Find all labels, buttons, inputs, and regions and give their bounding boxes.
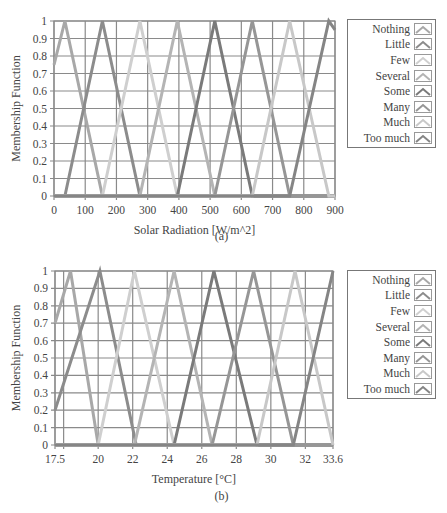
- y-tick-label: 0.7: [33, 68, 48, 80]
- legend-label: Some: [384, 85, 410, 97]
- x-tick-label: 700: [264, 204, 282, 216]
- x-tick-label: 500: [201, 204, 219, 216]
- y-tick-label: 0.6: [34, 335, 49, 347]
- y-tick-label: 0: [42, 439, 48, 451]
- legend-label: Some: [384, 336, 410, 348]
- y-tick-label: 0.4: [34, 369, 49, 381]
- legend-label: Many: [383, 101, 410, 113]
- legend-label: Several: [376, 70, 410, 82]
- y-tick-label: 0.9: [33, 33, 48, 45]
- legend-label: Several: [376, 321, 410, 333]
- legend-label: Many: [383, 352, 410, 364]
- legend-swatch-icon: [414, 132, 432, 144]
- y-tick-label: 0.8: [33, 50, 48, 62]
- x-tick-label: 32: [300, 453, 312, 465]
- caption-b: (b): [0, 489, 445, 504]
- legend-swatch-icon: [414, 116, 432, 128]
- y-tick-label: 0.1: [33, 173, 48, 185]
- y-tick-label: 0.3: [33, 138, 48, 150]
- legend-swatch-icon: [414, 23, 432, 35]
- y-tick-label: 0.2: [33, 155, 48, 167]
- legend-item: Much: [350, 115, 432, 131]
- legend-label: Nothing: [372, 274, 410, 286]
- y-axis-label: Membership Function: [9, 55, 23, 161]
- x-tick-label: 26: [196, 453, 208, 465]
- legend-item: Many: [350, 99, 432, 115]
- y-tick-label: 0.3: [34, 387, 49, 399]
- legend-swatch-icon: [414, 101, 432, 113]
- legend-item: Too much: [350, 381, 432, 397]
- legend-b: NothingLittleFewSeveralSomeManyMuchToo m…: [347, 270, 436, 399]
- legend-label: Too much: [364, 132, 410, 144]
- x-tick-label: 28: [231, 453, 243, 465]
- legend-item: Much: [350, 366, 432, 382]
- legend-label: Much: [383, 367, 410, 379]
- y-tick-label: 0.8: [34, 300, 49, 312]
- legend-label: Little: [385, 289, 410, 301]
- legend-a: NothingLittleFewSeveralSomeManyMuchToo m…: [347, 19, 436, 148]
- legend-label: Much: [383, 116, 410, 128]
- x-tick-label: 20: [92, 453, 104, 465]
- legend-item: Nothing: [350, 272, 432, 288]
- legend-item: Many: [350, 350, 432, 366]
- y-tick-label: 0.2: [34, 404, 49, 416]
- legend-item: Little: [350, 288, 432, 304]
- legend-swatch-icon: [414, 367, 432, 379]
- y-tick-label: 0.6: [33, 85, 48, 97]
- legend-item: Some: [350, 83, 432, 99]
- legend-swatch-icon: [414, 289, 432, 301]
- chart-temperature: 00.10.20.30.40.50.60.70.80.9117.52022242…: [0, 256, 447, 513]
- legend-item: Few: [350, 52, 432, 68]
- x-tick-label: 0: [51, 204, 57, 216]
- legend-item: Too much: [350, 130, 432, 146]
- legend-item: Few: [350, 303, 432, 319]
- legend-item: Little: [350, 37, 432, 53]
- legend-label: Too much: [364, 383, 410, 395]
- legend-swatch-icon: [414, 336, 432, 348]
- legend-swatch-icon: [414, 38, 432, 50]
- y-tick-label: 0.7: [34, 317, 49, 329]
- y-tick-label: 1: [41, 15, 47, 27]
- x-tick-label: 22: [127, 453, 139, 465]
- x-tick-label: 24: [161, 453, 173, 465]
- legend-swatch-icon: [414, 70, 432, 82]
- legend-swatch-icon: [414, 321, 432, 333]
- legend-item: Nothing: [350, 21, 432, 37]
- x-tick-label: 900: [326, 204, 344, 216]
- legend-item: Several: [350, 319, 432, 335]
- legend-swatch-icon: [414, 85, 432, 97]
- y-tick-label: 0.1: [34, 422, 49, 434]
- x-tick-label: 400: [170, 204, 188, 216]
- legend-swatch-icon: [414, 274, 432, 286]
- y-tick-label: 0.4: [33, 120, 48, 132]
- legend-label: Few: [390, 54, 410, 66]
- legend-swatch-icon: [414, 305, 432, 317]
- grid: 00.10.20.30.40.50.60.70.80.9101002003004…: [33, 15, 344, 216]
- x-axis-label: Temperature [°C]: [152, 472, 236, 486]
- y-tick-label: 1: [42, 265, 48, 277]
- y-axis-label: Membership Function: [9, 305, 23, 411]
- chart-solar-radiation: 00.10.20.30.40.50.60.70.80.9101002003004…: [0, 0, 447, 256]
- y-tick-label: 0: [41, 190, 47, 202]
- x-tick-label: 17.5: [45, 453, 65, 465]
- legend-label: Nothing: [372, 23, 410, 35]
- x-tick-label: 300: [139, 204, 157, 216]
- y-tick-label: 0.9: [34, 282, 49, 294]
- legend-swatch-icon: [414, 54, 432, 66]
- legend-item: Several: [350, 68, 432, 84]
- x-tick-label: 600: [233, 204, 251, 216]
- legend-swatch-icon: [414, 383, 432, 395]
- x-tick-label: 100: [77, 204, 95, 216]
- y-tick-label: 0.5: [34, 352, 49, 364]
- x-tick-label: 33.6: [323, 453, 343, 465]
- legend-item: Some: [350, 334, 432, 350]
- caption-a: (a): [0, 229, 445, 244]
- x-tick-label: 800: [295, 204, 313, 216]
- legend-swatch-icon: [414, 352, 432, 364]
- x-tick-label: 200: [108, 204, 126, 216]
- legend-label: Little: [385, 38, 410, 50]
- x-tick-label: 30: [265, 453, 277, 465]
- y-tick-label: 0.5: [33, 103, 48, 115]
- legend-label: Few: [390, 305, 410, 317]
